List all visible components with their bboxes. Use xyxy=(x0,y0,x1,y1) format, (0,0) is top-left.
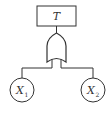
basic-event-1-subscript: 1 xyxy=(25,91,29,98)
top-event: T xyxy=(37,6,76,26)
fault-tree-diagram: T X 1 X 2 xyxy=(0,0,112,115)
basic-event-2: X 2 xyxy=(81,78,105,102)
basic-event-2-subscript: 2 xyxy=(96,91,100,98)
basic-event-2-label: X xyxy=(86,84,96,97)
or-gate xyxy=(47,33,66,62)
or-gate-icon xyxy=(47,33,66,62)
basic-event-1-label: X xyxy=(15,84,25,97)
basic-event-1: X 1 xyxy=(10,78,34,102)
